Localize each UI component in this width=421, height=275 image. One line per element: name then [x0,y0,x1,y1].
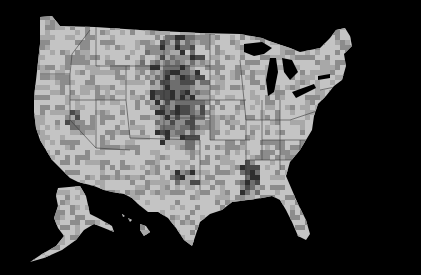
county-cell [350,175,355,180]
county-cell [140,130,145,135]
county-cell [50,230,55,235]
county-cell [275,130,280,135]
county-cell [265,165,270,170]
county-cell [325,105,330,110]
county-cell [40,205,45,210]
county-cell [255,25,265,30]
county-cell [175,160,180,165]
county-cell [305,15,310,20]
county-cell [45,20,50,25]
county-cell [45,25,50,30]
county-cell [35,125,40,130]
county-cell [155,215,160,220]
county-cell [20,245,25,250]
county-cell [75,130,80,135]
county-cell [275,190,280,195]
county-cell [135,60,140,65]
county-cell [55,240,60,245]
county-cell [40,160,45,165]
county-cell [30,160,40,165]
county-cell [20,145,25,150]
county-cell [85,20,90,25]
county-cell [355,205,360,210]
county-cell [240,125,245,130]
county-cell [200,170,210,175]
county-cell [140,245,145,250]
county-cell [230,35,235,40]
county-cell [285,195,290,200]
county-cell [285,40,295,45]
county-cell [180,160,190,165]
county-cell [210,265,215,270]
county-cell [25,75,30,80]
county-cell [225,170,230,175]
county-cell [335,140,340,145]
county-cell [25,85,30,90]
county-cell [120,130,130,135]
county-cell [280,200,285,205]
county-cell [110,135,115,140]
county-cell [240,105,245,110]
county-cell [310,25,315,30]
county-cell [205,245,215,250]
county-cell [70,130,75,135]
county-cell [260,260,265,265]
county-cell [325,15,330,20]
county-cell [245,225,250,230]
county-cell [265,105,275,110]
county-cell [45,125,50,130]
county-cell [45,160,50,165]
county-cell [205,175,215,180]
county-cell [110,85,115,90]
county-cell [65,35,75,40]
county-cell [125,140,135,145]
county-cell [355,225,360,230]
county-cell [140,115,150,120]
county-cell [30,155,35,160]
county-cell [150,180,160,185]
county-cell [215,20,225,25]
county-cell [225,190,230,195]
county-cell [55,180,60,185]
county-cell [340,250,345,255]
county-cell [165,100,170,105]
county-cell [135,250,140,255]
county-cell [170,220,175,225]
county-cell [320,175,325,180]
county-cell [220,240,225,245]
county-cell [170,225,175,230]
county-cell [320,60,330,65]
county-cell [75,225,80,230]
county-cell [100,140,105,145]
county-cell [165,60,170,65]
county-cell [290,215,300,220]
county-cell [75,260,80,265]
county-cell [225,145,230,150]
county-cell [115,25,120,30]
county-cell [330,145,335,150]
county-cell [300,125,305,130]
county-cell [135,125,145,130]
county-cell [335,210,340,215]
county-cell [245,20,250,25]
county-cell [290,210,295,215]
county-cell [225,150,230,155]
county-cell [320,95,325,100]
county-cell [275,85,280,90]
county-cell [160,215,165,220]
county-cell [275,95,280,100]
county-cell [65,95,70,100]
county-cell [120,220,125,225]
county-cell [155,75,160,80]
county-cell [20,60,25,65]
county-cell [80,40,90,45]
county-cell [250,205,255,210]
county-cell [25,265,35,270]
county-cell [195,55,205,60]
county-cell [270,160,275,165]
county-cell [210,35,215,40]
county-cell [95,90,100,95]
county-cell [140,95,145,100]
county-cell [300,130,305,135]
county-cell [40,55,45,60]
